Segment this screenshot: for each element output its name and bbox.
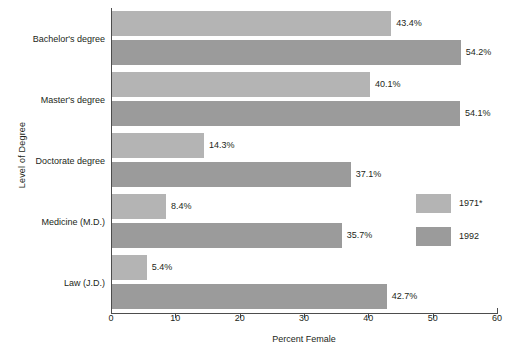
x-axis-tick-label: 50: [428, 313, 438, 323]
bar-value-label: 5.4%: [152, 255, 173, 280]
bar: [112, 284, 387, 309]
bar-chart: Level of Degree Bachelor's degreeMaster'…: [0, 0, 515, 358]
y-axis-title: Level of Degree: [17, 85, 27, 225]
bar-value-label: 54.1%: [465, 101, 491, 126]
legend-swatch: [416, 227, 451, 246]
bar: [112, 101, 460, 126]
bar: [112, 11, 391, 36]
legend-label: 1971*: [459, 198, 483, 208]
x-axis-tick-label: 0: [108, 313, 113, 323]
x-axis-tick-label: 10: [170, 313, 180, 323]
x-axis-title: Percent Female: [111, 334, 497, 344]
bar-value-label: 14.3%: [209, 133, 235, 158]
x-axis-tick-label: 60: [492, 313, 502, 323]
x-axis-tick-label: 40: [363, 313, 373, 323]
bar-value-label: 43.4%: [396, 11, 422, 36]
bar: [112, 72, 370, 97]
bar: [112, 40, 461, 65]
plot-area: 43.4%54.2%40.1%54.1%14.3%37.1%8.4%35.7%5…: [111, 8, 497, 313]
legend-label: 1992: [459, 231, 479, 241]
y-axis-category-label: Law (J.D.): [5, 278, 105, 288]
bar: [112, 162, 351, 187]
bar-value-label: 54.2%: [466, 40, 492, 65]
y-axis-category-label: Doctorate degree: [5, 156, 105, 166]
y-axis-category-label: Bachelor's degree: [5, 34, 105, 44]
legend-swatch: [416, 194, 451, 213]
bar: [112, 194, 166, 219]
y-axis-category-label: Medicine (M.D.): [5, 217, 105, 227]
y-axis-category-label: Master's degree: [5, 95, 105, 105]
x-axis-tick-label: 30: [299, 313, 309, 323]
bar-value-label: 40.1%: [375, 72, 401, 97]
bar-value-label: 8.4%: [171, 194, 192, 219]
x-axis-tick-label: 20: [235, 313, 245, 323]
bar: [112, 223, 342, 248]
bar-value-label: 37.1%: [356, 162, 382, 187]
bar-value-label: 35.7%: [347, 223, 373, 248]
bar: [112, 133, 204, 158]
bar-value-label: 42.7%: [392, 284, 418, 309]
bar: [112, 255, 147, 280]
